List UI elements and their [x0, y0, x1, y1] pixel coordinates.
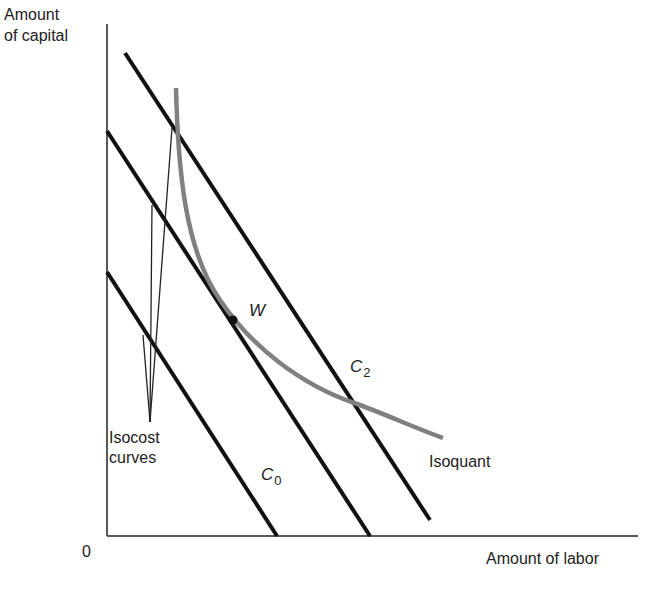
- y-axis-label: Amount of capital: [4, 4, 68, 46]
- c0-letter: C: [261, 465, 273, 484]
- c0-label: C0: [261, 465, 281, 486]
- y-axis-label-line2: of capital: [4, 25, 68, 46]
- tangency-point-w: [229, 316, 238, 325]
- isocost-label-line1: Isocost: [109, 428, 160, 448]
- y-axis-label-line1: Amount: [4, 4, 68, 25]
- pointer-line-top: [150, 128, 172, 422]
- isocost-label-line2: curves: [109, 448, 160, 468]
- isoquant-label: Isoquant: [429, 452, 490, 472]
- pointer-line-bottom: [143, 335, 150, 422]
- isoquant-curve: [176, 88, 443, 438]
- pointer-line-middle: [150, 205, 152, 422]
- isocost-label: Isocost curves: [109, 428, 160, 468]
- isocost-line-c2: [125, 53, 430, 520]
- point-w-label: W: [249, 301, 265, 321]
- origin-label: 0: [82, 542, 91, 562]
- c2-letter: C: [350, 357, 362, 376]
- c0-subscript: 0: [274, 473, 281, 488]
- diagram-canvas: [0, 0, 670, 597]
- x-axis-label: Amount of labor: [486, 549, 599, 569]
- c2-subscript: 2: [363, 365, 370, 380]
- c2-label: C2: [350, 357, 370, 378]
